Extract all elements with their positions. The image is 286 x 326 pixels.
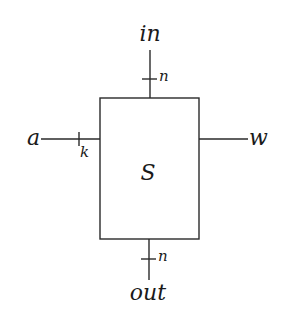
input-a-width-label: k [80,143,89,161]
input-in-width-label: n [159,67,169,85]
input-in-label: in [139,21,160,46]
block-s-label: S [140,160,155,185]
block-diagram: S in n n out a k w [0,0,286,326]
output-w-label: w [249,125,268,150]
output-out-label: out [130,280,166,305]
output-out-width-label: n [158,247,168,265]
input-a-label: a [27,125,40,150]
